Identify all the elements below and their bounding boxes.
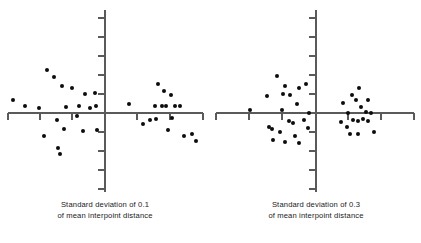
data-point <box>83 92 87 96</box>
caption-left: Standard deviation of 0.1 of mean interp… <box>0 200 210 221</box>
data-point <box>291 121 295 125</box>
data-point <box>75 114 79 118</box>
data-point <box>70 86 74 90</box>
data-point <box>357 86 361 90</box>
data-point <box>288 93 292 97</box>
data-point <box>297 86 301 90</box>
scatter-figure: Standard deviation of 0.1 of mean interp… <box>0 0 421 243</box>
data-point <box>248 108 252 112</box>
data-point <box>283 84 287 88</box>
data-points-right <box>211 0 421 200</box>
data-point <box>293 134 297 138</box>
data-point <box>77 104 81 108</box>
data-point <box>62 127 66 131</box>
data-point <box>304 82 308 86</box>
data-point <box>280 108 284 112</box>
data-point <box>281 92 285 96</box>
data-point <box>190 132 194 136</box>
caption-left-line2: of mean interpoint distance <box>0 211 210 222</box>
data-point <box>154 117 158 121</box>
data-point <box>361 117 365 121</box>
data-point <box>166 128 170 132</box>
data-point <box>354 98 358 102</box>
data-point <box>42 134 46 138</box>
data-point <box>372 130 376 134</box>
data-point <box>369 111 373 115</box>
data-point <box>162 89 166 93</box>
data-point <box>182 134 186 138</box>
data-point <box>141 122 145 126</box>
data-point <box>81 129 85 133</box>
data-point <box>351 118 355 122</box>
data-point <box>306 126 310 130</box>
panel-left: Standard deviation of 0.1 of mean interp… <box>0 0 210 243</box>
data-point <box>356 132 360 136</box>
data-point <box>270 127 274 131</box>
data-point <box>366 98 370 102</box>
panel-right: Standard deviation of 0.3 of mean interp… <box>211 0 421 243</box>
data-point <box>173 104 177 108</box>
data-point <box>164 104 168 108</box>
data-point <box>170 116 174 120</box>
data-point <box>297 141 301 145</box>
data-point <box>52 75 56 79</box>
data-point <box>271 138 275 142</box>
data-point <box>341 101 345 105</box>
data-point <box>58 152 62 156</box>
data-point <box>283 140 287 144</box>
data-point <box>307 111 311 115</box>
data-point <box>366 119 370 123</box>
data-point <box>278 130 282 134</box>
data-point <box>45 68 49 72</box>
data-point <box>56 146 60 150</box>
plot-area-right <box>211 0 421 200</box>
caption-right: Standard deviation of 0.3 of mean interp… <box>211 200 421 221</box>
data-point <box>160 104 164 108</box>
data-point <box>275 74 279 78</box>
plot-area-left <box>0 0 210 200</box>
data-point <box>350 93 354 97</box>
data-point <box>60 84 64 88</box>
data-point <box>64 105 68 109</box>
data-point <box>93 91 97 95</box>
data-point <box>127 102 131 106</box>
data-points-left <box>0 0 210 200</box>
data-point <box>345 125 349 129</box>
data-point <box>356 119 360 123</box>
data-point <box>95 128 99 132</box>
data-point <box>348 132 352 136</box>
data-point <box>23 104 27 108</box>
data-point <box>169 93 173 97</box>
data-point <box>11 98 15 102</box>
data-point <box>88 106 92 110</box>
caption-left-line1: Standard deviation of 0.1 <box>0 200 210 211</box>
caption-right-line2: of mean interpoint distance <box>211 211 421 222</box>
data-point <box>194 139 198 143</box>
data-point <box>359 105 363 109</box>
data-point <box>55 118 59 122</box>
data-point <box>346 111 350 115</box>
data-point <box>153 104 157 108</box>
data-point <box>339 120 343 124</box>
data-point <box>302 118 306 122</box>
data-point <box>265 94 269 98</box>
caption-right-line1: Standard deviation of 0.3 <box>211 200 421 211</box>
data-point <box>364 110 368 114</box>
data-point <box>148 118 152 122</box>
data-point <box>37 106 41 110</box>
data-point <box>156 82 160 86</box>
data-point <box>178 104 182 108</box>
data-point <box>295 102 299 106</box>
data-point <box>94 104 98 108</box>
